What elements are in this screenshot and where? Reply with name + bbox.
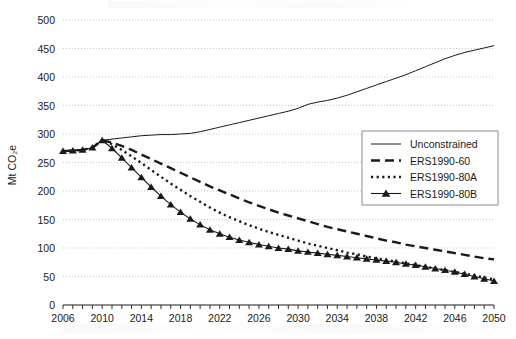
emissions-line-chart: 050100150200250300350400450500 200620102… bbox=[0, 0, 516, 339]
x-axis-tick-labels: 2006201020142018202220262030203420382042… bbox=[51, 312, 506, 324]
y-tick-label: 50 bbox=[43, 271, 55, 283]
x-axis bbox=[63, 305, 494, 309]
chart-figure: 050100150200250300350400450500 200620102… bbox=[0, 0, 516, 339]
series-marker bbox=[196, 221, 204, 227]
y-axis-tick-labels: 050100150200250300350400450500 bbox=[37, 14, 55, 311]
y-tick-label: 400 bbox=[37, 71, 55, 83]
series-marker bbox=[226, 234, 234, 240]
y-tick-label: 450 bbox=[37, 43, 55, 55]
x-tick-label: 2006 bbox=[51, 312, 75, 324]
x-tick-label: 2046 bbox=[443, 312, 467, 324]
y-tick-label: 300 bbox=[37, 128, 55, 140]
legend-label: Unconstrained bbox=[410, 138, 478, 150]
x-tick-label: 2010 bbox=[91, 312, 115, 324]
chart-legend: UnconstrainedERS1990-60ERS1990-80AERS199… bbox=[362, 131, 498, 205]
y-tick-label: 150 bbox=[37, 214, 55, 226]
x-tick-label: 2026 bbox=[247, 312, 271, 324]
x-tick-label: 2030 bbox=[286, 312, 310, 324]
x-tick-label: 2014 bbox=[130, 312, 154, 324]
legend-label: ERS1990-80A bbox=[410, 171, 477, 183]
y-tick-label: 100 bbox=[37, 242, 55, 254]
y-tick-label: 250 bbox=[37, 157, 55, 169]
x-tick-label: 2034 bbox=[326, 312, 350, 324]
y-tick-label: 350 bbox=[37, 100, 55, 112]
x-tick-label: 2042 bbox=[404, 312, 428, 324]
x-tick-label: 2022 bbox=[208, 312, 232, 324]
y-tick-label: 200 bbox=[37, 185, 55, 197]
y-tick-label: 0 bbox=[49, 299, 55, 311]
legend-label: ERS1990-80B bbox=[410, 188, 477, 200]
x-tick-label: 2038 bbox=[365, 312, 389, 324]
x-tick-label: 2018 bbox=[169, 312, 193, 324]
y-tick-label: 500 bbox=[37, 14, 55, 26]
legend-label: ERS1990-60 bbox=[410, 155, 470, 167]
series-marker bbox=[206, 226, 214, 232]
series-marker bbox=[186, 215, 194, 221]
y-axis-label: Mt CO₂e bbox=[6, 145, 18, 185]
x-tick-label: 2050 bbox=[482, 312, 506, 324]
series-marker bbox=[216, 230, 224, 236]
